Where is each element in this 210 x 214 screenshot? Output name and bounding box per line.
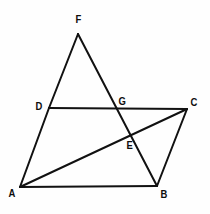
line-fb [78, 34, 157, 186]
segments-group [20, 34, 187, 187]
vertex-label-c: C [191, 97, 198, 108]
line-fd [49, 34, 78, 108]
vertex-label-b: B [161, 189, 168, 200]
vertex-label-a: A [9, 188, 16, 199]
vertex-label-e: E [127, 140, 133, 151]
figure-canvas [0, 0, 210, 214]
vertex-label-f: F [75, 14, 81, 25]
vertex-label-d: D [36, 101, 43, 112]
side-ab [20, 186, 157, 187]
vertex-label-g: G [119, 96, 126, 107]
geometry-figure: ABCDEFG [0, 0, 210, 214]
